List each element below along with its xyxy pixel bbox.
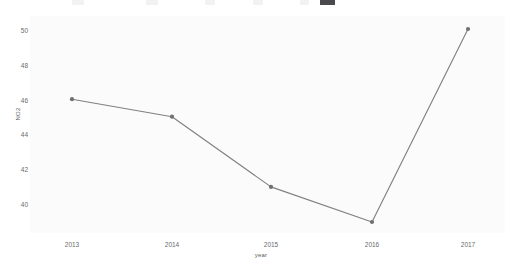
x-tick-label: 2015: [251, 242, 291, 249]
chart-figure: NO2 50 48 46 44 42 40 2013 2014 2015 201…: [0, 7, 522, 260]
x-tick-label: 2014: [152, 242, 192, 249]
x-axis-title: year: [0, 252, 522, 258]
data-point-marker: [370, 220, 374, 224]
toolbar-ghost-item-active: [320, 0, 335, 5]
data-point-marker: [466, 27, 470, 31]
toolbar-ghost-item: [300, 0, 309, 5]
toolbar-ghost-item: [72, 0, 84, 5]
data-point-marker: [70, 97, 74, 101]
cut-off-toolbar-strip: [0, 0, 522, 7]
series-line: [72, 29, 468, 222]
x-tick-label: 2016: [352, 242, 392, 249]
data-point-marker: [170, 115, 174, 119]
data-series-layer: [0, 7, 522, 260]
toolbar-ghost-item: [253, 0, 263, 5]
x-tick-label: 2017: [448, 242, 488, 249]
data-point-marker: [269, 185, 273, 189]
x-tick-label: 2013: [52, 242, 92, 249]
toolbar-ghost-item: [146, 0, 158, 5]
toolbar-ghost-item: [205, 0, 215, 5]
